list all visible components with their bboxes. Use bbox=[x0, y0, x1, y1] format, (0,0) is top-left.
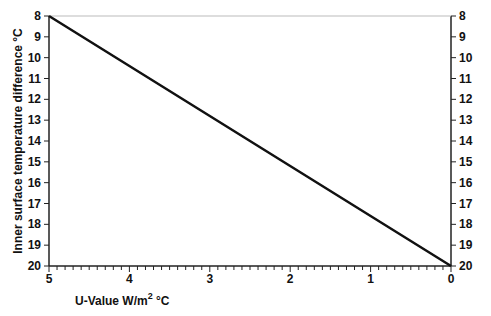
x-tick-label: 3 bbox=[206, 272, 213, 286]
y-tick-label: 15 bbox=[28, 155, 42, 169]
x-axis: 543210 bbox=[46, 266, 455, 286]
y-tick-label-right: 14 bbox=[459, 134, 473, 148]
y-tick-label: 9 bbox=[34, 30, 41, 44]
y-tick-label: 14 bbox=[28, 134, 42, 148]
y-tick-label-right: 13 bbox=[459, 113, 473, 127]
y-axis-left: 891011121314151617181920 bbox=[28, 9, 49, 273]
y-tick-label-right: 18 bbox=[459, 217, 473, 231]
data-series bbox=[49, 16, 451, 266]
x-tick-label: 2 bbox=[287, 272, 294, 286]
y-tick-label-right: 16 bbox=[459, 176, 473, 190]
y-tick-label-right: 10 bbox=[459, 51, 473, 65]
y-tick-label-right: 8 bbox=[459, 9, 466, 23]
y-tick-label-right: 17 bbox=[459, 197, 473, 211]
y-tick-label: 10 bbox=[28, 51, 42, 65]
y-tick-label: 13 bbox=[28, 113, 42, 127]
y-tick-label: 16 bbox=[28, 176, 42, 190]
y-tick-label: 17 bbox=[28, 197, 42, 211]
x-axis-title: U-Value W/m2 °C bbox=[75, 291, 170, 308]
series-line bbox=[49, 16, 451, 266]
y-axis-title: Inner surface temperature difference °C bbox=[11, 28, 25, 254]
x-tick-label: 4 bbox=[126, 272, 133, 286]
x-tick-label: 5 bbox=[46, 272, 53, 286]
x-tick-label: 0 bbox=[448, 272, 455, 286]
y-tick-label-right: 19 bbox=[459, 238, 473, 252]
y-tick-label: 18 bbox=[28, 217, 42, 231]
y-tick-label: 12 bbox=[28, 92, 42, 106]
y-tick-label-right: 12 bbox=[459, 92, 473, 106]
chart: 891011121314151617181920 891011121314151… bbox=[0, 0, 491, 316]
y-axis-right: 891011121314151617181920 bbox=[451, 9, 473, 273]
y-tick-label: 19 bbox=[28, 238, 42, 252]
y-tick-label-right: 15 bbox=[459, 155, 473, 169]
y-tick-label-right: 11 bbox=[459, 72, 472, 86]
y-tick-label-right: 9 bbox=[459, 30, 466, 44]
y-tick-label-right: 20 bbox=[459, 259, 473, 273]
y-tick-label: 11 bbox=[28, 72, 41, 86]
y-tick-label: 8 bbox=[34, 9, 41, 23]
y-tick-label: 20 bbox=[28, 259, 42, 273]
x-tick-label: 1 bbox=[367, 272, 374, 286]
